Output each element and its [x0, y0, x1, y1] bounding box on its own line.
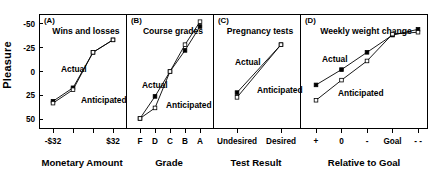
data-point-anticipated [365, 59, 369, 63]
series-label-actual: Actual [235, 57, 261, 67]
y-tick-label: 25 [26, 91, 36, 100]
data-point-actual [198, 25, 202, 29]
x-tick-label: - [366, 137, 369, 146]
panel-title: Weekly weight change [320, 26, 412, 36]
x-tick-label: F [137, 137, 142, 146]
series-label-actual: Actual [322, 54, 348, 64]
x-tick-label: C [167, 137, 173, 146]
data-point-actual [235, 91, 239, 95]
data-point-anticipated [340, 78, 344, 82]
y-tick-label: -25 [23, 44, 35, 53]
data-point-anticipated [183, 43, 187, 47]
panel-title: Wins and losses [52, 26, 119, 36]
y-axis-label: Pleasure [0, 0, 15, 130]
data-point-anticipated [138, 117, 142, 121]
series-label-anticipated: Anticipated [166, 100, 212, 110]
data-point-anticipated [279, 43, 283, 47]
panel-letter: (D) [305, 16, 316, 25]
x-tick-label: B [182, 137, 188, 146]
x-tick-label: Desired [266, 137, 296, 146]
x-axis-label: Test Result [231, 157, 283, 168]
data-point-anticipated [71, 88, 75, 92]
data-point-anticipated [91, 51, 95, 55]
x-axis-label: Relative to Goal [328, 157, 401, 168]
figure-container: Pleasure 50250-25-50-$32$32(A)Wins and l… [0, 0, 442, 174]
series-label-anticipated: Anticipated [338, 88, 384, 98]
data-point-actual [340, 68, 344, 72]
multi-panel-chart: 50250-25-50-$32$32(A)Wins and lossesMone… [0, 0, 442, 174]
x-tick-label: Undesired [217, 137, 257, 146]
panel-letter: (C) [218, 16, 229, 25]
data-point-anticipated [198, 20, 202, 24]
data-point-anticipated [111, 38, 115, 42]
panel-B: FDCBA(B)Course gradesGradeActualAnticipa… [127, 14, 212, 168]
data-point-anticipated [235, 96, 239, 100]
panel-C: UndesiredDesired(C)Pregnancy testsTest R… [214, 14, 303, 168]
panel-D: +0-Goal- -(D)Weekly weight changeRelativ… [301, 14, 423, 168]
y-tick-label: 50 [26, 115, 36, 124]
x-tick-label: + [314, 137, 319, 146]
x-tick-label: - - [414, 137, 422, 146]
panel-letter: (B) [131, 16, 142, 25]
y-tick-label: 0 [30, 68, 35, 77]
series-label-anticipated: Anticipated [257, 85, 303, 95]
y-axis-label-text: Pleasure [1, 41, 13, 88]
panel-A: -$32$32(A)Wins and lossesMonetary Amount… [41, 16, 126, 168]
data-point-anticipated [168, 70, 172, 74]
data-point-actual [314, 83, 318, 87]
data-point-actual [365, 51, 369, 55]
data-point-anticipated [153, 106, 157, 110]
series-label-actual: Actual [61, 64, 87, 74]
y-tick-label: -50 [23, 20, 35, 29]
series-label-actual: Actual [142, 80, 168, 90]
x-tick-label: Goal [383, 137, 401, 146]
data-point-anticipated [314, 98, 318, 102]
x-tick-label: $32 [106, 137, 120, 146]
data-point-actual [153, 95, 157, 99]
x-tick-label: D [152, 137, 158, 146]
panel-title: Pregnancy tests [227, 26, 294, 36]
panel-letter: (A) [44, 16, 55, 25]
x-tick-label: 0 [339, 137, 344, 146]
data-point-anticipated [391, 32, 395, 36]
x-axis-label: Monetary Amount [41, 157, 123, 168]
x-tick-label: A [197, 137, 203, 146]
data-point-anticipated [51, 101, 55, 105]
data-point-anticipated [416, 30, 420, 34]
data-point-actual [183, 49, 187, 53]
series-label-anticipated: Anticipated [81, 95, 127, 105]
x-tick-label: -$32 [45, 137, 62, 146]
x-axis-label: Grade [155, 157, 183, 168]
